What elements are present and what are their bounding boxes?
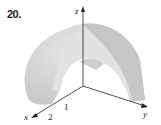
y-axis-arrow-icon [141, 103, 148, 108]
spherical-shell-diagram: z y x 1 2 [0, 0, 161, 125]
z-axis-label: z [74, 6, 79, 16]
x-axis-label: x [23, 112, 28, 122]
y-axis-label: y [142, 109, 147, 119]
tick-label-inner: 1 [64, 102, 69, 112]
z-axis-arrow-icon [81, 6, 85, 12]
tick-label-outer: 2 [48, 112, 53, 122]
